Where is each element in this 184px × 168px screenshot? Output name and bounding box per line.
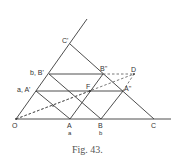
- label-b-prime: b, B': [30, 69, 44, 76]
- figure-caption: Fig. 43.: [72, 144, 103, 155]
- line-a-prime-to-a: [36, 91, 70, 119]
- point-f-dot: [89, 90, 91, 92]
- label-b: B: [98, 122, 103, 129]
- point-d-dot: [133, 73, 135, 75]
- point-o-dot: [15, 118, 17, 120]
- label-f: F: [86, 83, 90, 90]
- label-a-prime: a, A': [17, 86, 30, 93]
- line-c-prime-to-c: [70, 44, 154, 119]
- label-c: C: [151, 122, 156, 129]
- sublabel-b: b: [99, 130, 103, 136]
- sublabel-a: a: [68, 130, 72, 136]
- line-b-to-a-double-prime: [101, 91, 123, 119]
- label-a: A: [67, 122, 72, 129]
- label-o: O: [12, 122, 18, 129]
- midpoint-dot: [52, 105, 54, 107]
- label-c-prime: C': [62, 37, 68, 44]
- label-d: D: [131, 66, 136, 73]
- geometry-figure: C' b, B' a, A' B'' A'' D F O A B C a b F…: [0, 0, 184, 168]
- label-b-double-prime: B'': [100, 65, 107, 72]
- label-a-double-prime: A'': [124, 85, 131, 92]
